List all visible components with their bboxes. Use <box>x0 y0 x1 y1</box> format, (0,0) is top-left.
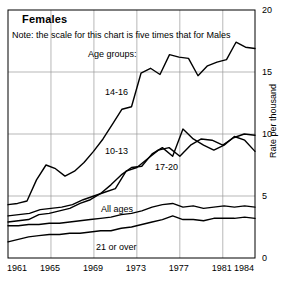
chart-title: Females <box>22 14 67 25</box>
chart-container: Females Note: the scale for this chart i… <box>0 0 287 283</box>
y-tick-20: 20 <box>262 5 272 15</box>
y-tick-0: 0 <box>262 253 267 263</box>
y-axis-label: Rate per thousand <box>268 84 278 158</box>
legend-heading: Age groups: <box>88 50 137 59</box>
series-label-21-or-over: 21 or over <box>96 243 137 252</box>
y-tick-5: 5 <box>262 191 267 201</box>
series-label-all-ages: All ages <box>101 205 133 214</box>
y-tick-15: 15 <box>262 67 272 77</box>
series-label-10-13: 10-13 <box>105 147 128 156</box>
y-tick-10: 10 <box>262 129 272 139</box>
x-tick-1977: 1977 <box>169 263 189 273</box>
gridlines-group <box>8 10 255 258</box>
x-tick-1973: 1973 <box>126 263 146 273</box>
x-tick-1961: 1961 <box>7 263 27 273</box>
series-line-14-16 <box>8 42 255 204</box>
chart-plot-svg <box>0 0 287 283</box>
series-label-14-16: 14-16 <box>105 88 128 97</box>
x-tick-1981: 1981 <box>212 263 232 273</box>
x-tick-1969: 1969 <box>83 263 103 273</box>
chart-note: Note: the scale for this chart is five t… <box>12 31 231 40</box>
series-label-17-20: 17-20 <box>155 163 178 172</box>
x-tick-1965: 1965 <box>40 263 60 273</box>
x-tick-1984: 1984 <box>234 263 254 273</box>
series-line-21-or-over <box>8 216 255 242</box>
